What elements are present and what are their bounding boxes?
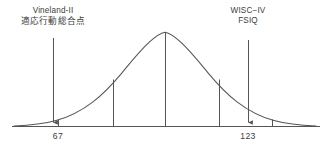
axis-tick-label-67: 67 (38, 131, 78, 141)
axis-tick-label-123: 123 (228, 131, 268, 141)
normal-distribution-figure: Vineland-II 適応行動総合点 WISC−IV FSIQ 67 123 (0, 0, 329, 156)
